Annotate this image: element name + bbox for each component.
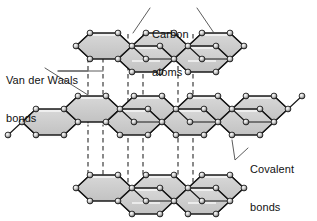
carbon-atom: [213, 43, 219, 49]
van-der-waals-bonds-label-line2: bonds: [6, 112, 78, 125]
carbon-atom: [299, 93, 305, 99]
covalent-bonds-label: Covalent bonds: [250, 138, 294, 221]
covalent-bonds-label-line2: bonds: [250, 201, 294, 214]
carbon-atom: [229, 106, 235, 112]
carbon-atom: [87, 56, 93, 62]
carbon-atoms-leader-left: [133, 8, 150, 33]
carbon-atoms-leader-right: [197, 8, 214, 33]
carbon-atom: [131, 93, 137, 99]
covalent-bonds-leader: [232, 140, 248, 160]
carbon-atom: [215, 93, 221, 99]
carbon-atom: [201, 106, 207, 112]
carbon-atom: [143, 30, 149, 36]
carbon-atom: [227, 198, 233, 204]
carbon-atom: [243, 119, 249, 125]
carbon-atom: [199, 56, 205, 62]
carbon-atom: [213, 185, 219, 191]
carbon-atom: [115, 172, 121, 178]
carbon-atom: [227, 30, 233, 36]
carbon-atom: [157, 211, 163, 217]
carbon-atom: [145, 106, 151, 112]
carbon-atom: [129, 43, 135, 49]
carbon-atom: [131, 119, 137, 125]
carbon-atom: [241, 185, 247, 191]
carbon-atoms-label: Carbon atoms: [152, 3, 189, 103]
van-der-waals-bonds-label-line1: Van der Waals: [6, 74, 78, 87]
carbon-atom: [143, 198, 149, 204]
carbon-atom: [103, 119, 109, 125]
carbon-atom: [87, 172, 93, 178]
carbon-atom: [227, 56, 233, 62]
carbon-atom: [199, 198, 205, 204]
carbon-atom: [87, 30, 93, 36]
covalent-bonds-label-line1: Covalent: [250, 163, 294, 176]
carbon-atom: [201, 132, 207, 138]
carbon-atom: [173, 106, 179, 112]
carbon-atom: [145, 132, 151, 138]
carbon-atom: [115, 30, 121, 36]
carbon-atom: [117, 132, 123, 138]
carbon-atoms-label-line1: Carbon: [152, 28, 189, 41]
carbon-atom: [199, 30, 205, 36]
carbon-atom: [227, 172, 233, 178]
carbon-atom: [159, 119, 165, 125]
carbon-atom: [199, 172, 205, 178]
graphene-layer-bottom: [73, 172, 247, 217]
carbon-atom: [173, 132, 179, 138]
hexagon-faces: [76, 175, 244, 214]
carbon-atom: [73, 185, 79, 191]
carbon-atom: [241, 43, 247, 49]
carbon-atom: [271, 93, 277, 99]
carbon-atom: [129, 69, 135, 75]
carbon-atom: [115, 56, 121, 62]
carbon-atom: [129, 211, 135, 217]
carbon-atom: [213, 211, 219, 217]
carbon-atom: [171, 198, 177, 204]
carbon-atom: [117, 106, 123, 112]
carbon-atom: [87, 198, 93, 204]
carbon-atoms-label-line2: atoms: [152, 66, 189, 79]
carbon-atom: [143, 56, 149, 62]
carbon-atom: [129, 185, 135, 191]
carbon-atom: [187, 119, 193, 125]
carbon-atom: [229, 132, 235, 138]
carbon-atom: [171, 172, 177, 178]
carbon-atom: [185, 211, 191, 217]
carbon-atom: [185, 185, 191, 191]
van-der-waals-bonds-label: Van der Waals bonds: [6, 49, 78, 149]
carbon-atom: [257, 106, 263, 112]
graphite-structure-figure: Carbon atoms Van der Waals bonds Covalen…: [0, 0, 317, 221]
carbon-atom: [103, 93, 109, 99]
carbon-atom: [115, 198, 121, 204]
carbon-atom: [143, 172, 149, 178]
carbon-atom: [285, 106, 291, 112]
carbon-atom: [157, 185, 163, 191]
carbon-atom: [243, 93, 249, 99]
carbon-atom: [213, 69, 219, 75]
carbon-atom: [271, 119, 277, 125]
carbon-atom: [215, 119, 221, 125]
